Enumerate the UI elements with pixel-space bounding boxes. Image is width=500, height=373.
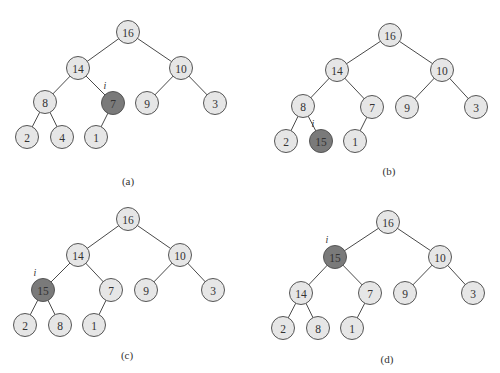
panel-caption: (a): [122, 175, 135, 188]
node-value: 7: [110, 98, 116, 110]
node-value: 1: [93, 132, 99, 144]
node-value: 3: [470, 288, 476, 300]
heap-diagram: 16141087i93241(a) 1614108793215i1(b) 161…: [0, 0, 500, 373]
node-value: 14: [295, 288, 307, 300]
node-value: 3: [473, 102, 479, 114]
panel-c: 16141015i793281(c): [14, 208, 225, 363]
node-value: 16: [122, 27, 134, 39]
index-marker-i: i: [326, 234, 329, 245]
node-value: 8: [300, 101, 306, 113]
node-value: 4: [59, 132, 65, 144]
panel-caption: (c): [121, 349, 134, 362]
node-value: 15: [315, 136, 327, 148]
node-value: 1: [91, 320, 97, 332]
node-value: 16: [382, 217, 394, 229]
node-value: 2: [280, 323, 286, 335]
node-value: 7: [367, 288, 373, 300]
panel-caption: (b): [383, 165, 396, 178]
node-value: 15: [329, 252, 341, 264]
node-value: 1: [349, 323, 355, 335]
panel-a: 16141087i93241(a): [16, 21, 227, 189]
node-value: 9: [144, 98, 150, 110]
node-value: 3: [210, 285, 216, 297]
panel-caption: (d): [381, 353, 394, 366]
node-value: 10: [175, 63, 187, 75]
node-value: 14: [72, 250, 84, 262]
node-value: 16: [384, 30, 396, 42]
node-value: 10: [434, 252, 446, 264]
node-value: 10: [436, 65, 448, 77]
node-value: 9: [143, 285, 149, 297]
node-value: 7: [369, 102, 375, 114]
panel-d: 1615i1014793281(d): [272, 211, 485, 367]
node-value: 7: [108, 285, 114, 297]
panel-b: 1614108793215i1(b): [275, 24, 488, 179]
node-value: 9: [402, 288, 408, 300]
node-value: 1: [352, 136, 358, 148]
node-value: 3: [212, 98, 218, 110]
node-value: 8: [42, 97, 48, 109]
node-value: 2: [24, 132, 30, 144]
node-value: 2: [283, 136, 289, 148]
node-value: 8: [57, 320, 63, 332]
index-marker-i: i: [312, 118, 315, 129]
node-value: 14: [331, 65, 343, 77]
node-value: 2: [22, 320, 28, 332]
node-value: 15: [37, 285, 49, 297]
node-value: 10: [174, 250, 186, 262]
node-value: 14: [72, 63, 84, 75]
index-marker-i: i: [104, 80, 107, 91]
index-marker-i: i: [34, 267, 37, 278]
node-value: 8: [315, 323, 321, 335]
node-value: 9: [404, 102, 410, 114]
node-value: 16: [122, 214, 134, 226]
